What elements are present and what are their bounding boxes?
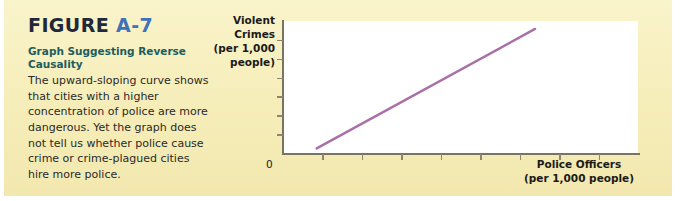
x-axis-label: Police Officers(per 1,000 people) — [504, 158, 654, 186]
caption-body: The upward-sloping curve shows that citi… — [28, 73, 210, 183]
x-axis-tick-4 — [441, 154, 442, 160]
chart: ViolentCrimes(per 1,000people) Police Of… — [222, 8, 652, 193]
x-axis-line — [282, 153, 640, 155]
y-axis-label-line-1: Crimes — [163, 28, 275, 42]
trend-line-series — [283, 21, 638, 153]
x-axis-tick-5 — [480, 154, 481, 160]
y-axis-label-line-3: people) — [163, 56, 275, 70]
trend-line — [317, 29, 535, 148]
figure-container: FIGURE A-7 Graph Suggesting Reverse Caus… — [0, 0, 697, 201]
x-axis-tick-1 — [322, 154, 323, 160]
x-axis-label-line-0: Police Officers — [504, 158, 654, 172]
x-axis-tick-3 — [401, 154, 402, 160]
y-axis-label-line-2: (per 1,000 — [163, 42, 275, 56]
figure-label: FIGURE — [28, 14, 109, 36]
origin-label: 0 — [266, 158, 273, 170]
y-axis-label-line-0: Violent — [163, 14, 275, 28]
x-axis-tick-2 — [362, 154, 363, 160]
y-axis-label: ViolentCrimes(per 1,000people) — [163, 14, 275, 70]
figure-number: A-7 — [116, 14, 153, 36]
x-axis-label-line-1: (per 1,000 people) — [504, 172, 654, 186]
